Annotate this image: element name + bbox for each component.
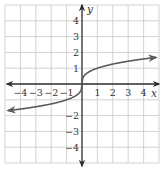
x-tick-label: −4 — [13, 87, 27, 98]
x-tick-label: 4 — [141, 87, 147, 98]
x-tick-label: −3 — [29, 87, 43, 98]
x-tick-label: 3 — [125, 87, 131, 98]
y-tick-label: 2 — [73, 47, 79, 58]
x-tick-label: 1 — [94, 87, 100, 98]
y-axis-label: y — [86, 3, 94, 15]
y-tick-label: 1 — [73, 63, 79, 74]
y-tick-label: 3 — [73, 31, 79, 42]
y-tick-label: −3 — [65, 126, 79, 137]
y-tick-label: 4 — [73, 15, 79, 26]
cube-root-graph: −4−3−2−11234 4321−2−3−4 x y — [0, 0, 166, 173]
x-tick-label: −2 — [44, 87, 58, 98]
x-tick-label: −1 — [60, 87, 74, 98]
x-axis-label: x — [151, 87, 157, 99]
x-tick-label: 2 — [110, 87, 116, 98]
y-tick-label: −2 — [65, 110, 79, 121]
y-tick-label: −4 — [65, 142, 79, 153]
